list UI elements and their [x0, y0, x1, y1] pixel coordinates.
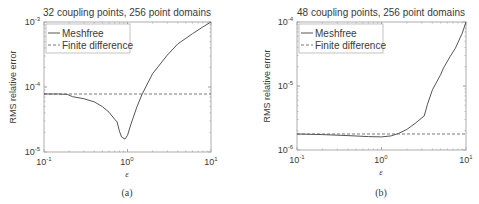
xtick-label: 10-1: [36, 156, 52, 167]
panel-b-ylabel: RMS relative error: [262, 49, 272, 122]
panel-b-legend: Meshfree Finite difference: [299, 24, 386, 53]
panel-a-legend: Meshfree Finite difference: [46, 24, 133, 53]
ytick-label: 10-4: [25, 81, 41, 92]
panel-b-xlabel: ε: [379, 167, 383, 177]
ytick-label: 10-4: [278, 16, 294, 27]
panel-a-xlabel: ε: [125, 169, 129, 179]
ytick-label: 10-5: [25, 146, 41, 157]
xtick-label: 101: [459, 154, 473, 165]
panel-b: 48 coupling points, 256 point domains Me…: [262, 7, 473, 199]
xtick-label: 100: [120, 156, 134, 167]
panel-a-ylabel: RMS relative error: [8, 50, 18, 123]
panel-a-title: 32 coupling points, 256 point domains: [43, 7, 211, 18]
xtick-label: 100: [374, 154, 388, 165]
legend-meshfree-label: Meshfree: [62, 28, 104, 39]
xtick-label: 101: [204, 156, 218, 167]
ytick-label: 10-3: [25, 16, 41, 27]
legend-meshfree-label: Meshfree: [315, 28, 357, 39]
ytick-label: 10-5: [278, 80, 294, 91]
legend-finite-difference-label: Finite difference: [62, 40, 133, 51]
xtick-label: 10-1: [289, 154, 305, 165]
panel-b-caption: (b): [375, 187, 387, 199]
panel-a: 32 coupling points, 256 point domains Me…: [8, 7, 218, 199]
ytick-label: 10-6: [278, 144, 294, 155]
legend-finite-difference-label: Finite difference: [315, 40, 386, 51]
panel-b-title: 48 coupling points, 256 point domains: [297, 7, 465, 18]
panel-a-caption: (a): [121, 187, 132, 199]
